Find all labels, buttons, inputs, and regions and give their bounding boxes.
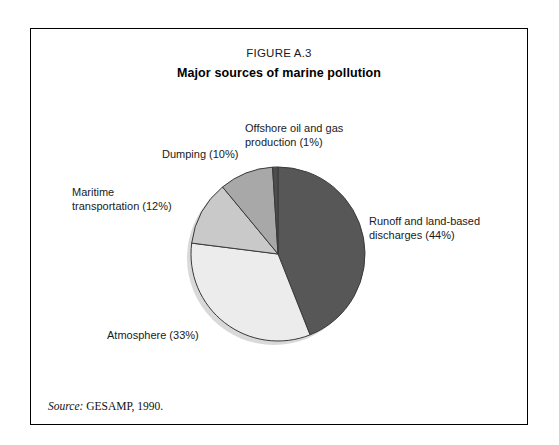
pie-label-offshore-oil-and-gas: Offshore oil and gas production (1%) <box>245 122 343 149</box>
pie-label-atmosphere: Atmosphere (33%) <box>107 329 199 343</box>
pie-label-runoff-land-based: Runoff and land-based discharges (44%) <box>369 215 480 242</box>
source-note: Source: GESAMP, 1990. <box>48 400 163 412</box>
source-label: Source: <box>48 400 83 412</box>
figure-frame: FIGURE A.3 Major sources of marine pollu… <box>30 28 528 425</box>
pie-label-dumping: Dumping (10%) <box>162 148 238 162</box>
pie-chart: Offshore oil and gas production (1%) Dum… <box>31 29 527 424</box>
source-text: GESAMP, 1990. <box>83 400 163 412</box>
pie-label-maritime-transportation: Maritime transportation (12%) <box>72 186 172 213</box>
pie-slice-group <box>191 167 365 341</box>
